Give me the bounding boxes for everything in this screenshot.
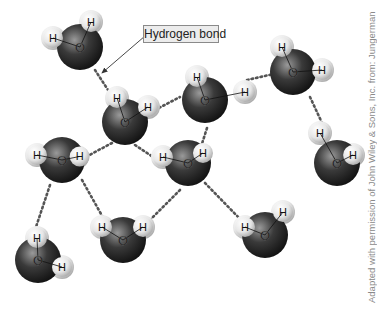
hydrogen-label: H	[58, 261, 66, 273]
hydrogen-label: H	[159, 151, 167, 163]
water-molecule: HHO	[151, 140, 213, 186]
hydrogen-bond-label: Hydrogen bond	[143, 25, 219, 43]
water-molecule: HHO	[90, 215, 155, 263]
oxygen-label: O	[200, 93, 210, 108]
hydrogen-label: H	[241, 86, 249, 98]
hydrogen-label: H	[279, 206, 287, 218]
hydrogen-bond-line	[310, 97, 323, 125]
oxygen-label: O	[118, 233, 128, 248]
hydrogen-label: H	[199, 147, 207, 159]
hydrogen-label: H	[98, 221, 106, 233]
water-molecule: HHO	[41, 10, 103, 70]
hydrogen-label: H	[33, 149, 41, 161]
water-molecule: HHO	[182, 65, 257, 123]
oxygen-label: O	[57, 153, 67, 168]
hydrogen-label: H	[241, 221, 249, 233]
hydrogen-bond-line	[205, 183, 243, 222]
hydrogen-label: H	[33, 232, 41, 244]
hydrogen-label: H	[349, 149, 357, 161]
oxygen-label: O	[75, 40, 85, 55]
oxygen-label: O	[33, 253, 43, 268]
label-pointer-arrow	[102, 36, 145, 73]
oxygen-label: O	[183, 156, 193, 171]
water-molecule: HHO	[308, 121, 365, 186]
hydrogen-bond-line	[35, 185, 50, 230]
oxygen-label: O	[332, 156, 342, 171]
oxygen-label: O	[120, 115, 130, 130]
hydrogen-label: H	[76, 150, 84, 162]
water-molecule: HHO	[270, 35, 334, 95]
hydrogen-label: H	[193, 71, 201, 83]
hydrogen-label: H	[144, 101, 152, 113]
image-credit: Adapted with permission of John Wiley & …	[366, 0, 377, 303]
water-hydrogen-bond-diagram: HHOHHOHHOHHOHHOHHOHHOHHOHHOHHO Hydrogen …	[0, 0, 382, 309]
water-molecule: HHO	[233, 200, 295, 258]
water-molecule: HHO	[102, 86, 160, 145]
hydrogen-label: H	[318, 64, 326, 76]
molecule-network: HHOHHOHHOHHOHHOHHOHHOHHOHHOHHO	[0, 0, 382, 309]
hydrogen-label: H	[113, 92, 121, 104]
hydrogen-label: H	[316, 127, 324, 139]
water-molecule: HHO	[25, 137, 90, 183]
oxygen-label: O	[288, 65, 298, 80]
hydrogen-label: H	[278, 41, 286, 53]
hydrogen-label: H	[87, 16, 95, 28]
water-molecule: HHO	[15, 226, 74, 283]
oxygen-label: O	[260, 228, 270, 243]
water-molecules: HHOHHOHHOHHOHHOHHOHHOHHOHHOHHO	[15, 10, 365, 283]
hydrogen-label: H	[49, 32, 57, 44]
hydrogen-label: H	[139, 221, 147, 233]
hydrogen-bond-line	[95, 70, 110, 93]
